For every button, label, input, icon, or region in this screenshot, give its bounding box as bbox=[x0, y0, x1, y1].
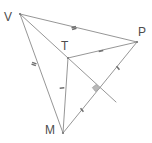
vertex-point-m bbox=[62, 132, 64, 134]
vertex-label-t: T bbox=[61, 40, 68, 52]
vertex-label-m: M bbox=[45, 124, 55, 136]
segment-vp bbox=[20, 14, 137, 42]
tick-mark-mp-5 bbox=[117, 66, 120, 70]
vertex-point-v bbox=[19, 13, 21, 15]
vertex-point-t bbox=[67, 57, 69, 59]
vertex-label-p: P bbox=[138, 26, 146, 38]
tick-mark-vm-1 bbox=[32, 62, 37, 65]
vertex-point-p bbox=[136, 41, 138, 43]
segment-tm bbox=[63, 58, 68, 133]
segment-vm bbox=[20, 14, 63, 133]
cevian-from-t bbox=[68, 58, 116, 102]
vertex-label-v: V bbox=[4, 11, 12, 23]
tick-mark-vp-0 bbox=[72, 26, 77, 29]
geometry-canvas bbox=[0, 0, 152, 143]
tick-mark-tp-2 bbox=[99, 51, 103, 52]
geometry-figure: V P T M bbox=[0, 0, 152, 143]
